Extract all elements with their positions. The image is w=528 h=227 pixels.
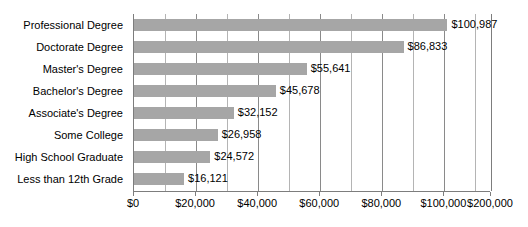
category-label: Associate's Degree <box>0 102 128 124</box>
bar-row: $86,833 <box>134 36 490 58</box>
bar-row: $24,572 <box>134 146 490 168</box>
tick-mark <box>490 192 491 196</box>
category-label: Doctorate Degree <box>0 36 128 58</box>
bar-row: $32,152 <box>134 102 490 124</box>
category-label: Master's Degree <box>0 58 128 80</box>
bar-row: $45,678 <box>134 80 490 102</box>
bar-row: $16,121 <box>134 168 490 190</box>
bar <box>134 173 184 185</box>
tick-mark <box>381 192 382 196</box>
tick-label: $20,000 <box>175 197 215 209</box>
bar <box>134 151 210 163</box>
bar-value-label: $24,572 <box>210 150 254 162</box>
tick-label: $100,000 <box>420 197 466 209</box>
tick-label: $80,000 <box>361 197 401 209</box>
category-label: Professional Degree <box>0 14 128 36</box>
tick-mark <box>257 192 258 196</box>
value-axis-ticks: $0$20,000$40,000$60,000$80,000$100,000$2… <box>133 195 490 213</box>
bar-chart: Professional DegreeDoctorate DegreeMaste… <box>0 0 528 227</box>
category-label: High School Graduate <box>0 146 128 168</box>
bar <box>134 107 234 119</box>
bar-row: $100,987 <box>134 14 490 36</box>
bar-row: $55,641 <box>134 58 490 80</box>
bar-value-label: $86,833 <box>404 40 448 52</box>
category-label: Less than 12th Grade <box>0 168 128 190</box>
bar-value-label: $32,152 <box>234 106 278 118</box>
category-label: Some College <box>0 124 128 146</box>
bar-value-label: $55,641 <box>307 62 351 74</box>
tick-mark <box>443 192 444 196</box>
category-axis-labels: Professional DegreeDoctorate DegreeMaste… <box>0 14 128 190</box>
tick-mark <box>195 192 196 196</box>
tick-label: $40,000 <box>237 197 277 209</box>
major-gridline <box>491 14 492 191</box>
bar <box>134 63 307 75</box>
category-label: Bachelor's Degree <box>0 80 128 102</box>
tick-label: $200,000 <box>467 197 513 209</box>
tick-mark <box>133 192 134 196</box>
bar <box>134 85 276 97</box>
tick-mark <box>319 192 320 196</box>
bar-value-label: $16,121 <box>184 172 228 184</box>
bar-value-label: $26,958 <box>218 128 262 140</box>
bar-row: $26,958 <box>134 124 490 146</box>
plot-area: $100,987$86,833$55,641$45,678$32,152$26,… <box>133 14 490 192</box>
bar-value-label: $45,678 <box>276 84 320 96</box>
bar <box>134 19 447 31</box>
bar-value-label: $100,987 <box>447 18 497 30</box>
bar <box>134 129 218 141</box>
tick-label: $0 <box>127 197 139 209</box>
tick-label: $60,000 <box>299 197 339 209</box>
bar <box>134 41 404 53</box>
